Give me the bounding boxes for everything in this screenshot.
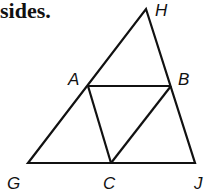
- label-H: H: [155, 1, 168, 20]
- label-J: J: [193, 174, 203, 193]
- triangle-diagram: H A B G C J: [0, 0, 206, 195]
- label-G: G: [7, 174, 20, 193]
- segment-BC: [111, 86, 171, 163]
- label-B: B: [178, 70, 189, 89]
- segment-AC: [88, 86, 111, 163]
- label-C: C: [103, 174, 116, 193]
- label-A: A: [67, 70, 79, 89]
